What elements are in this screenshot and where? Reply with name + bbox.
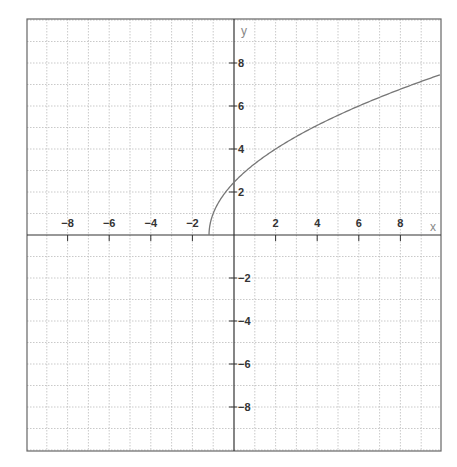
y-tick-label: −2 xyxy=(238,272,251,284)
y-tick-label: 4 xyxy=(238,143,245,155)
y-tick-label: 2 xyxy=(238,186,244,198)
x-tick-label: −8 xyxy=(61,217,74,229)
y-tick-label: −4 xyxy=(238,315,251,327)
x-tick-label: 8 xyxy=(397,217,403,229)
x-tick-label: 2 xyxy=(273,217,279,229)
y-tick-label: −8 xyxy=(238,401,251,413)
x-tick-label: 6 xyxy=(356,217,362,229)
x-axis-label: x xyxy=(430,220,436,234)
y-axis-label: y xyxy=(241,24,247,38)
y-tick-label: 8 xyxy=(238,57,244,69)
x-tick-label: −2 xyxy=(186,217,199,229)
y-tick-label: −6 xyxy=(238,358,251,370)
x-tick-label: −4 xyxy=(145,217,158,229)
y-tick-label: 6 xyxy=(238,100,244,112)
x-tick-label: −6 xyxy=(103,217,116,229)
x-axis-ticks: −8−6−4−22468 xyxy=(61,217,403,241)
graph-plot: −8−6−4−22468 8642−2−4−6−8 x y xyxy=(0,0,457,467)
x-tick-label: 4 xyxy=(314,217,321,229)
